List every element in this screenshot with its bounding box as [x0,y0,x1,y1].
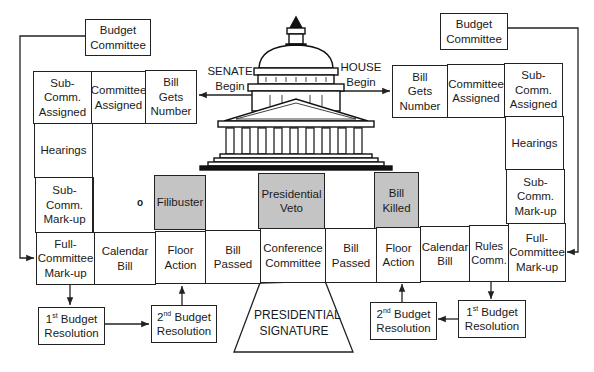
resolution-text: Budget [58,313,98,325]
house-floor-action: Floor Action [376,227,421,283]
filibuster-label: Filibuster [157,195,204,209]
house-rules-committee: Rules Comm. [469,225,509,282]
cell-label: Bill Gets Number [400,70,441,113]
cell-label: Sub-Comm. Assigned [505,68,562,111]
senate-floor-action: Floor Action [155,231,206,284]
cell-label: Floor Action [383,241,415,270]
senate-begin-label: SENATE Begin [202,64,258,94]
right-first-budget-resolution: 1st BudgetResolution [458,300,526,338]
cell-label: Full- Committee Mark-up [38,237,94,280]
house-hearings: Hearings [505,116,564,170]
house-sub-comm-markup: Sub-Comm. Mark-up [506,169,565,224]
divider [92,123,93,233]
resolution-text-2: Resolution [157,325,211,337]
presidential-veto-box: Presidential Veto [258,173,325,229]
cell-label: Committee Assigned [448,77,504,106]
senate-sub-comm-markup: Sub-Comm. Mark-up [35,177,94,233]
house-bill-gets-number: Bill Gets Number [392,65,448,118]
cell-label: Sub-Comm. Mark-up [507,175,564,218]
senate-sub-comm-assigned: Sub-Comm. Assigned [33,71,92,124]
resolution-label: 2nd BudgetResolution [376,307,430,336]
cell-label: Full- Committee Mark-up [509,231,565,274]
senate-committee-assigned: Committee Assigned [91,71,146,124]
right-second-budget-resolution: 2nd BudgetResolution [370,302,437,340]
left-budget-committee: Budget Committee [85,19,151,56]
presidential-veto-label: Presidential Veto [261,187,321,216]
cell-label: Hearings [511,136,557,150]
resolution-text: Budget [391,308,431,320]
cell-label: Bill Gets Number [151,75,192,118]
house-bill-passed: Bill Passed [325,228,377,283]
ordinal-suffix: nd [383,307,391,314]
senate-full-committee-markup: Full- Committee Mark-up [36,232,95,285]
senate-calendar-bill: Calendar Bill [94,232,156,285]
cell-label: Bill Passed [332,241,370,270]
resolution-text: Budget [171,311,211,323]
right-budget-committee: Budget Committee [440,13,508,50]
cell-label: Calendar Bill [422,240,469,269]
house-calendar-bill: Calendar Bill [420,226,470,282]
filibuster-box: Filibuster [154,175,206,230]
resolution-label: 1st BudgetResolution [44,312,98,341]
left-budget-committee-label: Budget Committee [90,23,146,52]
left-first-budget-resolution: 1st BudgetResolution [38,307,105,345]
conference-committee: Conference Committee [260,228,326,283]
cell-label: Rules Comm. [471,240,506,268]
cell-label: Floor Action [165,243,197,272]
left-second-budget-resolution: 2nd BudgetResolution [151,305,217,343]
resolution-text: Budget [478,306,518,318]
stray-mark: o [137,196,143,209]
cell-label: Bill Passed [214,243,252,272]
senate-hearings: Hearings [34,123,93,178]
senate-bill-gets-number: Bill Gets Number [145,70,197,124]
right-budget-committee-label: Budget Committee [446,17,502,46]
resolution-text-2: Resolution [376,322,430,334]
cell-label: Conference Committee [263,241,322,270]
house-sub-comm-assigned: Sub-Comm. Assigned [504,63,563,117]
cell-label: Sub-Comm. Assigned [34,76,91,119]
resolution-text-2: Resolution [465,320,519,332]
resolution-label: 2nd BudgetResolution [157,310,211,339]
senate-bill-passed: Bill Passed [205,230,261,284]
cell-label: Sub-Comm. Mark-up [36,183,93,226]
cell-label: Calendar Bill [102,244,149,273]
house-full-committee-markup: Full- Committee Mark-up [508,223,566,282]
bill-killed-box: Bill Killed [374,172,419,229]
resolution-label: 1st BudgetResolution [465,305,519,334]
presidential-signature-label: PRESIDENTIAL SIGNATURE [254,307,334,339]
resolution-text-2: Resolution [44,327,98,339]
cell-label: Committee Assigned [91,83,147,112]
cell-label: Hearings [40,143,86,157]
house-begin-label: HOUSE Begin [336,60,386,90]
bill-killed-label: Bill Killed [382,186,410,215]
house-committee-assigned: Committee Assigned [447,64,505,118]
